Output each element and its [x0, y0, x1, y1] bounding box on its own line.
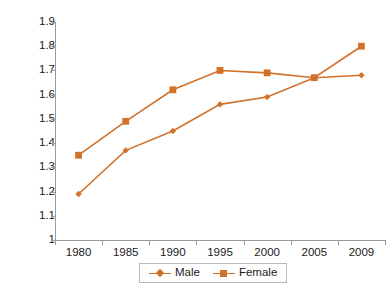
series-female: [75, 43, 365, 159]
data-point: [264, 94, 270, 100]
legend-label: Male: [175, 267, 200, 279]
data-point: [75, 152, 82, 159]
data-point: [122, 118, 129, 125]
chart-legend: MaleFemale: [139, 263, 287, 283]
plot-area: 11.11.21.31.41.51.61.71.81.9 19801985199…: [0, 0, 392, 250]
data-point: [311, 74, 318, 81]
data-point: [170, 128, 176, 134]
diamond-marker-icon: [149, 268, 171, 278]
data-point: [169, 86, 176, 93]
data-point: [358, 72, 364, 78]
data-point: [217, 67, 224, 74]
data-point: [264, 69, 271, 76]
square-marker-icon: [213, 268, 235, 278]
series-line: [79, 75, 362, 194]
series-male: [75, 72, 364, 197]
data-point: [358, 43, 365, 50]
legend-item-male[interactable]: Male: [149, 267, 200, 279]
legend-item-female[interactable]: Female: [213, 267, 277, 279]
line-chart: 11.11.21.31.41.51.61.71.81.9 19801985199…: [0, 0, 392, 292]
series-line: [79, 46, 362, 155]
legend-label: Female: [239, 267, 277, 279]
data-point: [217, 101, 223, 107]
series-layer: [0, 0, 392, 250]
